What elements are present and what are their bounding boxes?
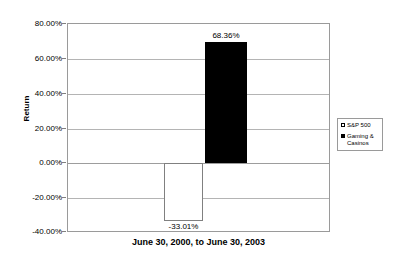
bar-label-gaming-casinos: 68.36% [202,31,250,40]
return-comparison-bar-chart: 80.00% 60.00% 40.00% 20.00% 0.00% -20.00… [0,0,414,260]
y-tick-mark-neg20 [62,197,66,198]
x-axis-title: June 30, 2000, to June 30, 2003 [67,237,330,247]
legend-swatch-filled-icon [341,134,345,138]
chart-legend: S&P 500 Gaming & Casinos [337,118,383,151]
plot-area: -33.01% 68.36% [67,23,330,232]
y-tick-label-neg40: -40.00% [32,227,62,236]
bar-sp500[interactable] [164,163,203,221]
legend-label-sp500: S&P 500 [347,122,371,129]
y-tick-mark-40 [62,93,66,94]
gridline-40 [68,94,329,95]
legend-label-gaming-casinos: Gaming & Casinos [347,133,380,147]
y-tick-label-0: 0.00% [39,158,62,167]
gridline-60 [68,59,329,60]
y-tick-mark-60 [62,58,66,59]
legend-item-sp500[interactable]: S&P 500 [341,122,380,129]
y-tick-label-20: 20.00% [35,124,62,133]
y-axis-ticks: 80.00% 60.00% 40.00% 20.00% 0.00% -20.00… [0,23,62,232]
legend-item-gaming-casinos[interactable]: Gaming & Casinos [341,133,380,147]
y-tick-label-neg20: -20.00% [32,193,62,202]
legend-swatch-hollow-icon [341,123,345,127]
y-tick-label-60: 60.00% [35,54,62,63]
bar-gaming-casinos[interactable] [205,42,247,163]
gridline-20 [68,129,329,130]
y-axis-title: Return [22,79,31,139]
y-tick-mark-0 [62,162,66,163]
y-tick-mark-80 [62,23,66,24]
y-tick-label-80: 80.00% [35,19,62,28]
y-tick-mark-neg40 [62,231,66,232]
bar-label-sp500: -33.01% [160,222,207,231]
y-tick-mark-20 [62,128,66,129]
y-tick-label-40: 40.00% [35,89,62,98]
